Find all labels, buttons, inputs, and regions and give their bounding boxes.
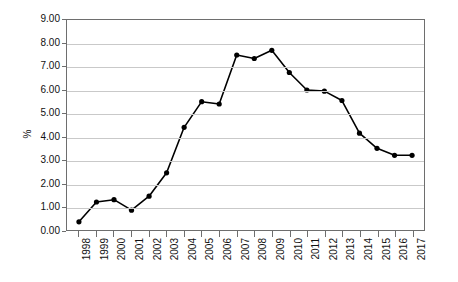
x-axis-tick-labels: 1998199920002001200220032004200520062007…: [66, 238, 425, 282]
data-point: [182, 125, 187, 130]
data-point: [357, 131, 362, 136]
y-tick-label: 2.00: [14, 179, 60, 189]
x-tick-label: 2007: [241, 238, 251, 282]
x-tick-mark: [219, 231, 220, 237]
x-tick-label: 2004: [188, 238, 198, 282]
y-tick-mark: [62, 160, 66, 161]
x-tick-label: 2017: [417, 238, 427, 282]
x-tick-label: 2013: [346, 238, 356, 282]
x-axis-ticks: [66, 231, 425, 238]
y-axis-tick-labels: 0.001.002.003.004.005.006.007.008.009.00: [12, 0, 60, 282]
x-tick-mark: [378, 231, 379, 237]
series-line: [79, 50, 412, 222]
y-tick-label: 0.00: [14, 226, 60, 236]
x-tick-label: 2002: [153, 238, 163, 282]
data-point: [146, 194, 151, 199]
line-chart: % 0.001.002.003.004.005.006.007.008.009.…: [0, 0, 458, 282]
y-tick-mark: [62, 207, 66, 208]
x-tick-mark: [96, 231, 97, 237]
data-point: [217, 101, 222, 106]
x-tick-mark: [78, 231, 79, 237]
x-tick-label: 2012: [329, 238, 339, 282]
x-tick-mark: [184, 231, 185, 237]
data-point: [111, 197, 116, 202]
x-tick-label: 2005: [205, 238, 215, 282]
y-tick-mark: [62, 137, 66, 138]
y-tick-mark: [62, 19, 66, 20]
data-point: [164, 170, 169, 175]
gridline: [67, 67, 424, 68]
data-point: [287, 70, 292, 75]
gridline: [67, 91, 424, 92]
data-point: [409, 153, 414, 158]
gridline: [67, 185, 424, 186]
data-point: [234, 52, 239, 57]
x-tick-label: 2006: [223, 238, 233, 282]
x-tick-label: 2000: [117, 238, 127, 282]
data-point: [269, 48, 274, 53]
data-point: [374, 146, 379, 151]
data-point: [339, 98, 344, 103]
x-tick-label: 2001: [135, 238, 145, 282]
gridline: [67, 138, 424, 139]
y-tick-label: 9.00: [14, 14, 60, 24]
x-tick-mark: [166, 231, 167, 237]
x-tick-mark: [113, 231, 114, 237]
y-tick-mark: [62, 90, 66, 91]
x-tick-mark: [307, 231, 308, 237]
x-tick-mark: [131, 231, 132, 237]
data-point: [94, 199, 99, 204]
y-tick-label: 3.00: [14, 155, 60, 165]
y-tick-label: 6.00: [14, 85, 60, 95]
x-tick-mark: [290, 231, 291, 237]
x-tick-mark: [325, 231, 326, 237]
x-tick-label: 2014: [364, 238, 374, 282]
x-tick-mark: [254, 231, 255, 237]
y-tick-label: 7.00: [14, 61, 60, 71]
y-tick-mark: [62, 113, 66, 114]
x-tick-label: 2011: [311, 238, 321, 282]
x-tick-mark: [237, 231, 238, 237]
data-point: [199, 99, 204, 104]
y-tick-label: 4.00: [14, 132, 60, 142]
x-tick-mark: [149, 231, 150, 237]
x-tick-label: 2008: [258, 238, 268, 282]
data-point: [252, 56, 257, 61]
y-tick-mark: [62, 43, 66, 44]
gridline: [67, 208, 424, 209]
y-tick-label: 8.00: [14, 38, 60, 48]
x-tick-label: 2009: [276, 238, 286, 282]
x-tick-mark: [272, 231, 273, 237]
x-tick-mark: [201, 231, 202, 237]
gridline: [67, 44, 424, 45]
x-tick-mark: [360, 231, 361, 237]
plot-area: [66, 19, 425, 231]
gridline: [67, 161, 424, 162]
x-tick-label: 2016: [399, 238, 409, 282]
x-tick-mark: [413, 231, 414, 237]
gridline: [67, 114, 424, 115]
data-point: [392, 153, 397, 158]
x-tick-label: 2015: [382, 238, 392, 282]
y-tick-mark: [62, 66, 66, 67]
x-tick-label: 1998: [82, 238, 92, 282]
x-tick-label: 2003: [170, 238, 180, 282]
x-tick-mark: [342, 231, 343, 237]
data-point: [76, 219, 81, 224]
y-tick-mark: [62, 184, 66, 185]
y-tick-label: 1.00: [14, 202, 60, 212]
y-tick-mark: [62, 231, 66, 232]
y-tick-label: 5.00: [14, 108, 60, 118]
data-series-line: [67, 20, 424, 230]
x-tick-label: 1999: [100, 238, 110, 282]
x-tick-label: 2010: [294, 238, 304, 282]
x-tick-mark: [395, 231, 396, 237]
